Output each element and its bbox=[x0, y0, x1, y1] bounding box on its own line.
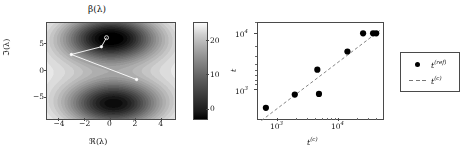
scatter-point bbox=[314, 67, 320, 73]
scatter-xaxis-label: t(c) bbox=[307, 137, 318, 147]
scatter-point bbox=[344, 48, 350, 54]
legend-label-tc: t(c) bbox=[431, 76, 442, 86]
scatter-xminortick bbox=[376, 118, 377, 120]
scatter-yminortick bbox=[255, 84, 257, 85]
heatmap-ytick-label: 0 bbox=[32, 67, 44, 75]
colorbar-tick-label: 20 bbox=[210, 37, 220, 45]
heatmap-ytick-label: −5 bbox=[28, 93, 44, 101]
scatter-yminortick bbox=[255, 56, 257, 57]
scatter-yminortick bbox=[255, 22, 257, 23]
legend-dashed-line-icon bbox=[407, 73, 429, 87]
scatter-yaxis-symbol: t bbox=[229, 69, 238, 72]
colorbar-tickmark bbox=[206, 74, 209, 75]
scatter-xaxis-superscript: (c) bbox=[310, 136, 317, 142]
figure-root: β(λ) −4 −2 0 2 4 5 0 −5 ℜ(λ) ℑ(λ) bbox=[0, 0, 464, 160]
scatter-ytick-label: 103 bbox=[235, 86, 248, 95]
heatmap-title: β(λ) bbox=[88, 5, 106, 14]
heatmap-ytickmark bbox=[44, 43, 47, 44]
scatter-yaxis-label: t bbox=[230, 69, 238, 72]
colorbar-tick-label: 0 bbox=[210, 105, 215, 113]
scatter-xminortick bbox=[307, 118, 308, 120]
scatter-point bbox=[292, 91, 298, 97]
legend-label-superscript: (ref) bbox=[434, 59, 446, 65]
optimization-path-overlay bbox=[47, 23, 175, 119]
scatter-xminortick bbox=[322, 118, 323, 120]
heatmap-yaxis-label: ℑ(λ) bbox=[3, 39, 11, 56]
scatter-ytick-mantissa: 10 bbox=[235, 30, 245, 39]
heatmap-plot-area bbox=[46, 22, 176, 120]
scatter-ytickmark bbox=[254, 89, 257, 90]
optimization-path-marker bbox=[70, 53, 72, 55]
scatter-xtick-mantissa: 10 bbox=[331, 122, 341, 131]
scatter-xtick-label: 103 bbox=[270, 121, 283, 130]
scatter-xminortick bbox=[315, 118, 316, 120]
scatter-ytickmark bbox=[254, 33, 257, 34]
scatter-xtick-label: 104 bbox=[331, 121, 344, 130]
heatmap-xaxis-label: ℜ(λ) bbox=[89, 138, 107, 146]
heatmap-xtick-label: 0 bbox=[107, 120, 112, 128]
scatter-point-group bbox=[263, 30, 379, 111]
scatter-ytick-mantissa: 10 bbox=[235, 87, 245, 96]
scatter-point bbox=[316, 91, 322, 97]
scatter-yminortick bbox=[255, 46, 257, 47]
heatmap-xtick-label: −4 bbox=[54, 120, 65, 128]
scatter-point bbox=[373, 30, 379, 36]
scatter-legend[interactable]: t(ref) t(c) bbox=[400, 52, 460, 92]
scatter-ytick-label: 104 bbox=[235, 29, 248, 38]
scatter-panel: 103 104 104 103 bbox=[232, 0, 464, 160]
colorbar-tickmark bbox=[206, 40, 209, 41]
scatter-xminortick bbox=[357, 118, 358, 120]
scatter-xminortick bbox=[368, 118, 369, 120]
scatter-ytick-exponent: 3 bbox=[245, 85, 249, 91]
heatmap-ytick-label: 5 bbox=[32, 40, 44, 48]
heatmap-xtick-label: −2 bbox=[79, 120, 90, 128]
optimization-path-marker bbox=[135, 78, 137, 80]
reference-line bbox=[261, 30, 381, 121]
scatter-xminortick bbox=[335, 118, 336, 120]
legend-marker-dot-icon bbox=[407, 57, 429, 71]
colorbar bbox=[193, 22, 208, 120]
legend-entry-tc[interactable]: t(c) bbox=[401, 73, 459, 87]
legend-label-tref: t(ref) bbox=[431, 60, 446, 70]
scatter-graphics bbox=[258, 23, 383, 119]
scatter-plot-area bbox=[257, 22, 384, 120]
scatter-xminortick bbox=[327, 118, 328, 120]
scatter-yminortick bbox=[255, 70, 257, 71]
scatter-xminortick bbox=[331, 118, 332, 120]
heatmap-ytickmark bbox=[44, 70, 47, 71]
heatmap-xtick-label: 2 bbox=[133, 120, 138, 128]
scatter-xminortick bbox=[296, 118, 297, 120]
legend-label-superscript: (c) bbox=[434, 75, 441, 81]
scatter-ytick-exponent: 4 bbox=[245, 28, 249, 34]
heatmap-panel: β(λ) −4 −2 0 2 4 5 0 −5 ℜ(λ) ℑ(λ) bbox=[0, 0, 232, 160]
optimization-path-line bbox=[71, 38, 136, 80]
heatmap-xtick-label: 4 bbox=[158, 120, 163, 128]
colorbar-tick-label: 10 bbox=[210, 71, 220, 79]
scatter-xtick-mantissa: 10 bbox=[270, 122, 280, 131]
scatter-xtick-exponent: 3 bbox=[280, 120, 284, 126]
scatter-point bbox=[263, 105, 269, 111]
scatter-yminortick bbox=[255, 80, 257, 81]
scatter-yminortick bbox=[255, 75, 257, 76]
colorbar-tickmark bbox=[206, 109, 209, 110]
scatter-xtick-exponent: 4 bbox=[341, 120, 345, 126]
heatmap-ytickmark bbox=[44, 97, 47, 98]
scatter-yminortick bbox=[255, 64, 257, 65]
optimization-path-marker bbox=[100, 46, 102, 48]
scatter-point bbox=[360, 30, 366, 36]
optimization-path-marker bbox=[105, 36, 109, 40]
legend-entry-tref[interactable]: t(ref) bbox=[401, 57, 459, 71]
